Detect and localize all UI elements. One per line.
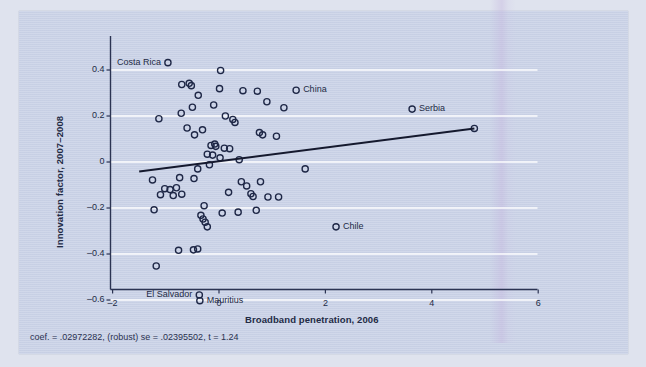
scatter-point (211, 102, 217, 108)
scatter-plot-svg (0, 0, 646, 367)
scatter-point (179, 191, 185, 197)
scatter-point (170, 192, 176, 198)
x-tick-label: 4 (417, 299, 447, 308)
scatter-point (157, 192, 163, 198)
scatter-point (195, 92, 201, 98)
y-tick-label: 0 (75, 157, 105, 166)
y-axis-title: Innovation factor, 2007–2008 (55, 116, 65, 248)
scatter-point (275, 194, 281, 200)
point-annotation-label: El Salvador (0, 290, 192, 299)
scatter-point (293, 87, 299, 93)
scatter-point (273, 133, 279, 139)
x-axis-title: Broadband penetration, 2006 (245, 315, 379, 325)
scatter-point (179, 81, 185, 87)
scatter-point (240, 88, 246, 94)
y-tick-label: –0.2 (75, 203, 105, 212)
scatter-point (219, 210, 225, 216)
scatter-point (333, 224, 339, 230)
x-tick-label: 2 (310, 299, 340, 308)
scatter-point (165, 60, 171, 66)
scatter-point (216, 86, 222, 92)
scatter-point (184, 125, 190, 131)
fit-line (139, 128, 474, 171)
scatter-point (177, 175, 183, 181)
scatter-point (409, 106, 415, 112)
scatter-point (195, 166, 201, 172)
scatter-point (264, 99, 270, 105)
regression-footnote: coef. = .02972282, (robust) se = .023955… (30, 333, 238, 342)
scatter-point (265, 194, 271, 200)
scatter-point (235, 209, 241, 215)
scatter-point (175, 247, 181, 253)
scatter-point (244, 183, 250, 189)
point-annotation-label: Chile (343, 222, 364, 231)
scatter-point (257, 179, 263, 185)
data-points (149, 60, 477, 304)
scatter-point (191, 132, 197, 138)
point-annotation-label: Costa Rica (0, 58, 161, 67)
scatter-point (254, 88, 260, 94)
scatter-point (199, 127, 205, 133)
point-annotation-label: Serbia (419, 104, 445, 113)
y-tick-label: –0.4 (75, 249, 105, 258)
x-tick-label: –2 (98, 299, 128, 308)
scatter-point (153, 263, 159, 269)
x-tick-label: 6 (523, 299, 553, 308)
scatter-point (149, 177, 155, 183)
scatter-point (191, 175, 197, 181)
point-annotation-label: Mauritius (207, 296, 244, 305)
point-annotation-label: China (303, 85, 327, 94)
scatter-point (281, 105, 287, 111)
scatter-point (225, 189, 231, 195)
scatter-point (189, 104, 195, 110)
axis-ticks (107, 70, 539, 300)
scatter-point (195, 246, 201, 252)
figure-root: 0.40.20–0.2–0.4–0.6–20246 Costa RicaChin… (0, 0, 646, 367)
scatter-point (173, 185, 179, 191)
scatter-point (302, 166, 308, 172)
y-tick-label: 0.2 (75, 111, 105, 120)
regression-line (139, 128, 474, 171)
